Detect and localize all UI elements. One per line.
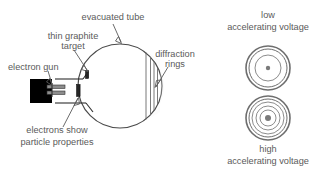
low-voltage-center-spot [266, 66, 270, 70]
label-high-voltage-line1: high [259, 144, 276, 154]
label-evacuated-tube: evacuated tube [82, 12, 145, 22]
diagram-canvas: evacuated tube thin graphite target elec… [0, 0, 314, 171]
high-voltage-ring-pattern [246, 96, 290, 140]
leader-arrowhead-electrons-show [74, 98, 80, 106]
label-thin-graphite-target-line2: target [61, 41, 85, 51]
label-low-voltage-line1: low [261, 10, 275, 20]
diffraction-diagram-figure: evacuated tube thin graphite target elec… [0, 0, 314, 171]
leader-arrowhead-graphite-target [82, 65, 89, 72]
label-diffraction-rings-line1: diffraction [155, 49, 195, 59]
low-voltage-ring-pattern [246, 46, 290, 90]
label-thin-graphite-target-line1: thin graphite [48, 31, 99, 41]
label-electrons-show-line1: electrons show [26, 125, 88, 135]
label-low-voltage-line2: accelerating voltage [227, 22, 309, 32]
label-electrons-show-line2: particle properties [20, 137, 93, 147]
high-voltage-center-spot [265, 115, 271, 121]
label-diffraction-rings-line2: rings [165, 59, 185, 69]
label-electron-gun: electron gun [8, 62, 59, 72]
label-high-voltage-line2: accelerating voltage [227, 156, 309, 166]
evacuated-tube-outline [78, 44, 162, 128]
thin-graphite-target [77, 85, 81, 97]
